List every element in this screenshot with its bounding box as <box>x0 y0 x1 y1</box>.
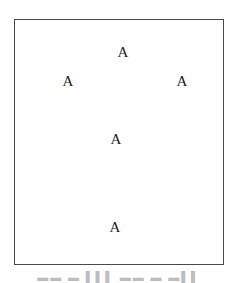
node-label-right: A <box>177 74 188 89</box>
node-label-left: A <box>63 74 74 89</box>
figure-caption: ▬▬ ▬ ▌▌▌ ▬▬ ▬ ▬▌▌ <box>0 271 238 283</box>
node-label-top: A <box>118 45 129 60</box>
node-label-bottom: A <box>110 220 121 235</box>
node-label-middle: A <box>111 132 122 147</box>
